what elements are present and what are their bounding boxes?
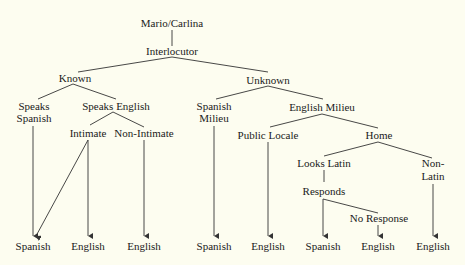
node-spanish-milieu-line1: Spanish (197, 100, 232, 112)
outcome-english: English (127, 240, 161, 252)
node-english-milieu: English Milieu (289, 101, 355, 113)
node-non-latin-line1: Non- (422, 157, 445, 169)
node-public-locale: Public Locale (238, 129, 299, 141)
node-non-intimate: Non-Intimate (114, 127, 173, 139)
node-unknown: Unknown (246, 74, 290, 86)
node-speaks-spanish-line2: Spanish (17, 112, 52, 124)
node-looks-latin: Looks Latin (297, 157, 351, 169)
node-non-latin-line2: Latin (421, 170, 445, 182)
language-choice-tree: Mario/Carlina Interlocutor Known Unknown… (0, 0, 465, 265)
node-intimate: Intimate (70, 127, 107, 139)
outcome-row: Spanish English English Spanish English … (16, 240, 451, 252)
outcome-spanish: Spanish (16, 240, 51, 252)
node-speaks-english: Speaks English (82, 100, 150, 112)
outcome-spanish: Spanish (197, 240, 232, 252)
node-root: Mario/Carlina (141, 17, 203, 29)
node-responds: Responds (303, 185, 346, 197)
node-interlocutor: Interlocutor (146, 45, 198, 57)
outcome-english: English (416, 240, 450, 252)
node-speaks-spanish-line1: Speaks (18, 100, 49, 112)
node-known: Known (59, 72, 92, 84)
node-home: Home (366, 129, 393, 141)
outcome-english: English (251, 240, 285, 252)
outcome-spanish: Spanish (306, 240, 341, 252)
outcome-english: English (361, 240, 395, 252)
outcome-english: English (71, 240, 105, 252)
node-spanish-milieu-line2: Milieu (199, 112, 229, 124)
node-no-response: No Response (350, 212, 408, 224)
